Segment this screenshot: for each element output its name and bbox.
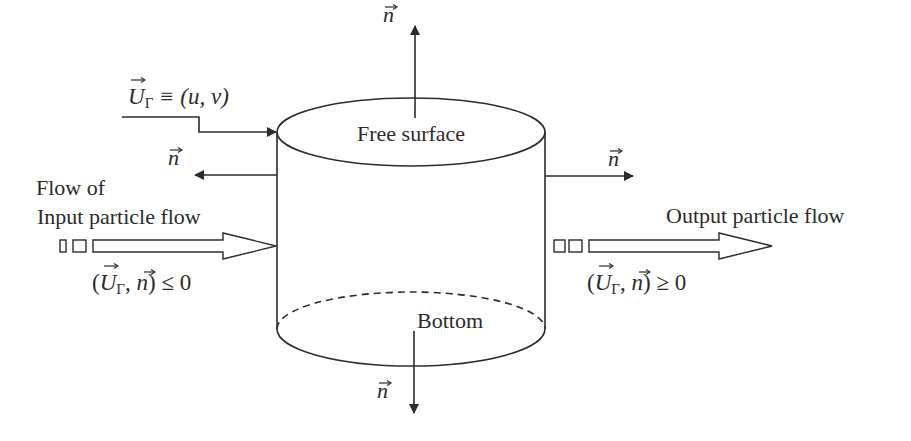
svg-text:n: n bbox=[377, 378, 388, 403]
control-volume-diagram: n n n n UΓ ≡ (u, v) Free surface Bottom … bbox=[0, 0, 911, 441]
boundary-velocity-arrow bbox=[122, 117, 276, 132]
outflow-label: Output particle flow bbox=[666, 203, 845, 228]
svg-text:n: n bbox=[383, 2, 394, 27]
inflow-condition: (UΓ, n) ≤ 0 bbox=[92, 264, 191, 298]
inflow-block-arrow bbox=[93, 233, 276, 259]
outflow-particle-2 bbox=[569, 240, 582, 252]
boundary-velocity-label: UΓ ≡ (u, v) bbox=[128, 78, 229, 112]
normal-label-bottom: n bbox=[377, 378, 391, 403]
inflow-particle-1 bbox=[60, 240, 66, 252]
svg-text:n: n bbox=[608, 146, 619, 171]
inflow-particle-2 bbox=[73, 240, 86, 252]
inflow-label-line2: Input particle flow bbox=[37, 204, 201, 229]
outflow-particle-1 bbox=[554, 240, 565, 252]
free-surface-label: Free surface bbox=[357, 121, 465, 146]
outflow-arrow bbox=[554, 233, 772, 259]
inflow-label-line1: Flow of bbox=[36, 175, 106, 200]
svg-text:(UΓ, n) ≥ 0: (UΓ, n) ≥ 0 bbox=[587, 270, 686, 297]
svg-text:(UΓ, n) ≤ 0: (UΓ, n) ≤ 0 bbox=[92, 270, 191, 297]
svg-text:UΓ ≡ (u, v): UΓ ≡ (u, v) bbox=[128, 84, 229, 111]
normal-label-right: n bbox=[608, 146, 622, 171]
bottom-ellipse-front bbox=[277, 329, 545, 366]
outflow-condition: (UΓ, n) ≥ 0 bbox=[587, 264, 686, 298]
bottom-ellipse-back-dashed bbox=[277, 292, 545, 329]
inflow-arrow bbox=[60, 233, 276, 259]
svg-text:n: n bbox=[168, 145, 179, 170]
normal-label-top: n bbox=[383, 2, 397, 27]
outflow-block-arrow bbox=[589, 233, 772, 259]
bottom-label: Bottom bbox=[417, 308, 483, 333]
normal-label-left: n bbox=[168, 145, 182, 170]
